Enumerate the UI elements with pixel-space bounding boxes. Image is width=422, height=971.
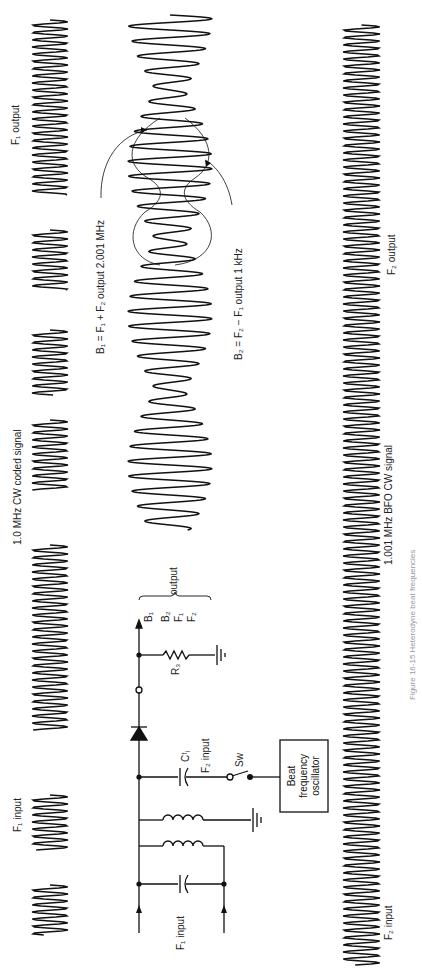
- beat-waveform: [128, 15, 211, 530]
- output-f2: F₂: [186, 612, 197, 622]
- junction-dots: [136, 652, 253, 886]
- output-f1: F₁: [173, 613, 184, 622]
- output-label: output: [168, 567, 179, 595]
- input-arrow-icon: [221, 905, 227, 913]
- figure-caption: Figure 16-15 Heterodyne beat frequencies: [408, 550, 417, 700]
- r3-label: R₃: [170, 664, 181, 675]
- f2-output-label: F₂ output: [386, 234, 397, 275]
- annotation-arrows: [101, 130, 232, 205]
- bfo-box-label: Beat frequency oscillator: [286, 741, 322, 811]
- bfo-box-line: Beat: [286, 741, 298, 811]
- f2-input-label: F₂ input: [383, 906, 394, 940]
- f2-bfo-waveform: [343, 25, 380, 965]
- b1-equation-label: B₁ = F₁ + F₂ output 2.001 MHz: [95, 220, 106, 354]
- sw-label: Sw: [234, 753, 245, 767]
- bfo-box-line: oscillator: [310, 741, 322, 811]
- circuit-f1-input-label: F₁ input: [175, 916, 186, 950]
- f1-output-label: F₁ output: [10, 105, 21, 145]
- bfo-box-line: frequency: [298, 741, 310, 811]
- bfo-signal-label: 1.001 MHz BFO CW signal: [383, 445, 394, 565]
- output-b2: B₂: [160, 611, 171, 622]
- f1-cw-coded-waveform: [32, 20, 68, 935]
- output-b1: B₁: [143, 612, 154, 622]
- cw-coded-label: 1.0 MHz CW coded signal: [12, 429, 23, 545]
- b2-equation-label: B₂ = F₂ − F₁ output 1 kHz: [233, 248, 244, 360]
- heterodyne-diagram: [0, 0, 422, 971]
- f2-input-circuit-label: F₂ input: [200, 739, 211, 773]
- cfi-label: Cᶠᵢ: [180, 751, 191, 762]
- f1-input-label: F₁ input: [12, 798, 23, 832]
- input-arrow-icon: [136, 905, 142, 913]
